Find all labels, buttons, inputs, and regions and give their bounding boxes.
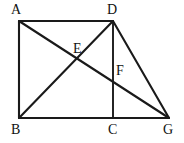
label-b: B bbox=[11, 123, 20, 137]
geometry-figure: ADBCGEF bbox=[0, 0, 184, 143]
edges-group bbox=[19, 21, 169, 118]
segment-bd bbox=[19, 21, 113, 118]
label-e: E bbox=[73, 42, 82, 56]
label-f: F bbox=[116, 64, 124, 78]
label-c: C bbox=[108, 123, 117, 137]
figure-svg-canvas bbox=[0, 0, 184, 143]
label-a: A bbox=[11, 3, 21, 17]
segment-ag bbox=[19, 21, 169, 118]
label-g: G bbox=[163, 123, 173, 137]
label-d: D bbox=[107, 3, 117, 17]
